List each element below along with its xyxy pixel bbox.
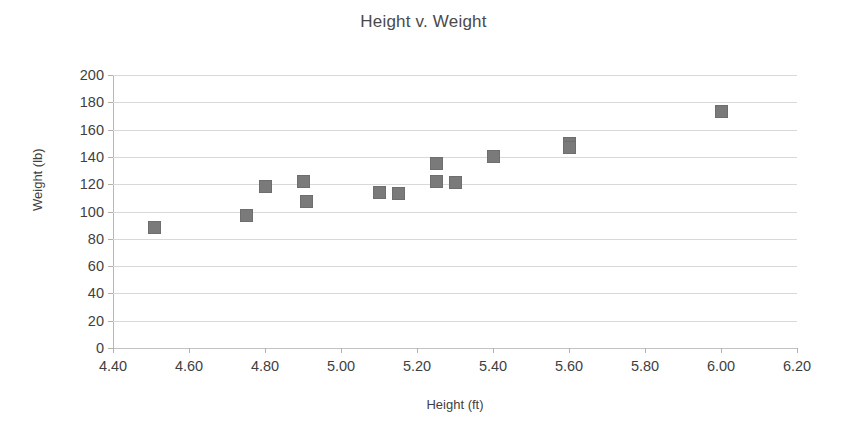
- gridline: [113, 293, 797, 294]
- y-tick-label: 140: [80, 149, 104, 165]
- y-tick-mark: [108, 130, 113, 131]
- y-tick-label: 180: [80, 94, 104, 110]
- x-tick-label: 5.40: [479, 358, 507, 374]
- gridline: [113, 266, 797, 267]
- x-tick-mark: [341, 348, 342, 353]
- x-tick-label: 4.80: [251, 358, 279, 374]
- scatter-chart: Height v. Weight Weight (lb) Height (ft)…: [0, 0, 847, 445]
- gridline: [113, 130, 797, 131]
- gridline: [113, 102, 797, 103]
- data-point: [392, 187, 405, 200]
- y-tick-mark: [108, 239, 113, 240]
- y-tick-mark: [108, 266, 113, 267]
- y-tick-label: 40: [88, 285, 104, 301]
- y-tick-label: 0: [96, 340, 104, 356]
- x-tick-label: 5.80: [631, 358, 659, 374]
- x-tick-mark: [265, 348, 266, 353]
- data-point: [430, 157, 443, 170]
- x-tick-mark: [189, 348, 190, 353]
- x-tick-label: 5.60: [555, 358, 583, 374]
- y-tick-mark: [108, 184, 113, 185]
- x-tick-label: 5.20: [403, 358, 431, 374]
- data-point: [449, 176, 462, 189]
- gridline: [113, 212, 797, 213]
- x-tick-mark: [417, 348, 418, 353]
- x-tick-label: 6.00: [707, 358, 735, 374]
- x-tick-mark: [569, 348, 570, 353]
- y-tick-mark: [108, 157, 113, 158]
- y-tick-label: 80: [88, 231, 104, 247]
- y-tick-mark: [108, 102, 113, 103]
- gridline: [113, 239, 797, 240]
- data-point: [259, 180, 272, 193]
- y-axis-title: Weight (lb): [30, 148, 45, 211]
- data-point: [487, 150, 500, 163]
- y-tick-mark: [108, 75, 113, 76]
- x-tick-label: 4.40: [99, 358, 127, 374]
- y-tick-label: 200: [80, 67, 104, 83]
- y-tick-mark: [108, 293, 113, 294]
- y-tick-label: 20: [88, 313, 104, 329]
- data-point: [430, 175, 443, 188]
- x-tick-label: 6.20: [783, 358, 811, 374]
- gridline: [113, 157, 797, 158]
- data-point: [373, 186, 386, 199]
- data-point: [715, 105, 728, 118]
- y-tick-label: 120: [80, 176, 104, 192]
- gridline: [113, 348, 797, 349]
- y-tick-label: 160: [80, 122, 104, 138]
- data-point: [300, 195, 313, 208]
- y-tick-mark: [108, 212, 113, 213]
- x-tick-label: 5.00: [327, 358, 355, 374]
- plot-frame: 200180160140120100806040200 4.404.604.80…: [113, 75, 797, 348]
- y-tick-label: 60: [88, 258, 104, 274]
- x-tick-mark: [645, 348, 646, 353]
- x-axis-title: Height (ft): [113, 397, 797, 412]
- x-tick-mark: [493, 348, 494, 353]
- gridline: [113, 321, 797, 322]
- x-tick-label: 4.60: [175, 358, 203, 374]
- data-point: [297, 175, 310, 188]
- data-point: [563, 141, 576, 154]
- data-point: [148, 221, 161, 234]
- data-point: [240, 209, 253, 222]
- chart-title: Height v. Weight: [0, 12, 847, 32]
- gridline: [113, 75, 797, 76]
- y-tick-mark: [108, 321, 113, 322]
- y-tick-label: 100: [80, 204, 104, 220]
- x-tick-mark: [721, 348, 722, 353]
- plot-area: 200180160140120100806040200 4.404.604.80…: [113, 75, 797, 348]
- x-tick-mark: [797, 348, 798, 353]
- x-tick-mark: [113, 348, 114, 353]
